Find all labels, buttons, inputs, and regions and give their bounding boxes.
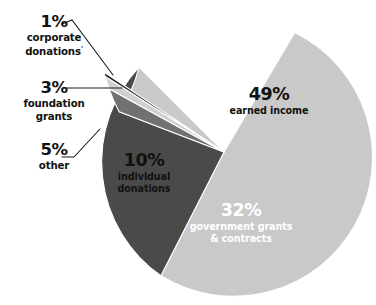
callout-name-corporate-line2-text: donations (25, 46, 81, 57)
slice-label-government-grants: 32% government grants & contracts (168, 200, 314, 245)
pie-chart-figure: 1% corporate donations' 3% foundation gr… (0, 0, 376, 305)
slice-label-individual-donations: 10% individual donations (92, 150, 196, 195)
slice-name-government-grants-line2: & contracts (168, 233, 314, 244)
footnote-marker-corporate: ' (81, 45, 83, 53)
slice-name-individual-donations-line2: donations (92, 183, 196, 194)
callout-percent-other: 5% (2, 140, 106, 159)
slice-name-government-grants-line1: government grants (168, 221, 314, 232)
callout-name-foundation-line1: foundation (2, 98, 106, 110)
callout-corporate-donations: 1% corporate donations' (2, 12, 106, 58)
callout-percent-foundation: 3% (2, 78, 106, 97)
slice-percent-earned-income: 49% (208, 84, 330, 104)
slice-name-individual-donations-line1: individual (92, 171, 196, 182)
callout-name-corporate-line1: corporate (2, 32, 106, 44)
slice-percent-individual-donations: 10% (92, 150, 196, 170)
callout-name-other-line1: other (2, 160, 106, 172)
callout-percent-corporate: 1% (2, 12, 106, 31)
slice-label-earned-income: 49% earned income (208, 84, 330, 116)
slice-percent-government-grants: 32% (168, 200, 314, 220)
callout-name-corporate-line2: donations' (2, 45, 106, 58)
callout-other: 5% other (2, 140, 106, 172)
callout-foundation-grants: 3% foundation grants (2, 78, 106, 123)
slice-name-earned-income: earned income (208, 105, 330, 116)
callout-name-foundation-line2: grants (2, 111, 106, 123)
